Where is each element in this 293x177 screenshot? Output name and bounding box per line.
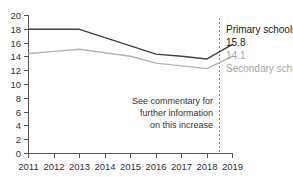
annotation-line-3: on this increase	[150, 120, 213, 130]
legend-primary-schools-value: 15.8	[226, 37, 246, 48]
y-tick-label: 20	[10, 10, 21, 21]
x-tick-label: 2016	[145, 161, 166, 172]
x-tick-label: 2015	[120, 161, 141, 172]
series-line-primary-schools	[29, 29, 233, 59]
x-tick-label: 2018	[196, 161, 217, 172]
y-tick-label: 18	[10, 24, 21, 35]
legend-secondary-schools-label: Secondary schools	[226, 63, 293, 74]
y-tick-marks	[24, 16, 29, 154]
y-tick-label: 2	[16, 134, 21, 145]
line-chart: 20 18 16 14 12 10 8 6 4 2 0 2011	[0, 0, 293, 177]
x-tick-label: 2019	[222, 161, 243, 172]
legend-group: Primary schools 15.8 14.1 Secondary scho…	[226, 24, 293, 74]
legend-primary-schools-label: Primary schools	[226, 24, 293, 35]
annotation-line-2: further information	[140, 108, 213, 118]
legend-secondary-schools-value: 14.1	[226, 50, 246, 61]
y-tick-label: 16	[10, 38, 21, 49]
chart-canvas: 20 18 16 14 12 10 8 6 4 2 0 2011	[0, 0, 293, 177]
x-tick-label: 2013	[69, 161, 90, 172]
x-tick-labels: 2011 2012 2013 2014 2015 2016 2017 2018 …	[18, 161, 243, 172]
commentary-annotation: See commentary for further information o…	[132, 96, 213, 130]
y-tick-label: 4	[16, 120, 21, 131]
x-tick-label: 2017	[171, 161, 192, 172]
y-tick-label: 8	[16, 93, 21, 104]
y-tick-label: 12	[10, 65, 21, 76]
x-tick-label: 2011	[18, 161, 38, 172]
y-tick-label: 14	[10, 51, 21, 62]
x-tick-label: 2012	[43, 161, 64, 172]
x-tick-label: 2014	[94, 161, 115, 172]
y-tick-labels: 20 18 16 14 12 10 8 6 4 2 0	[10, 10, 21, 159]
y-tick-label: 0	[16, 148, 21, 159]
annotation-line-1: See commentary for	[132, 96, 213, 106]
y-tick-label: 6	[16, 107, 21, 118]
y-tick-label: 10	[10, 79, 21, 90]
x-tick-marks	[29, 154, 233, 159]
